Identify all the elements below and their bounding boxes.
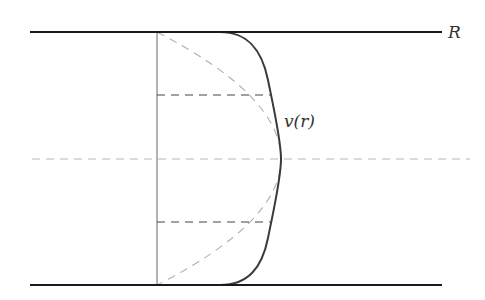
velocity-profile-diagram: R v(r) bbox=[0, 0, 485, 300]
radius-label: R bbox=[447, 22, 461, 42]
velocity-label: v(r) bbox=[284, 111, 315, 131]
